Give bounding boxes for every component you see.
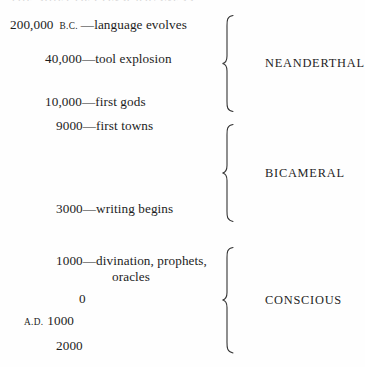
entry-era: B.C. — [60, 21, 78, 31]
entry-number: 3000 — [56, 201, 83, 216]
era-group-label: CONSCIOUS — [265, 293, 342, 308]
entry-event: first towns — [96, 118, 153, 133]
curly-brace-icon — [221, 14, 243, 113]
entry-number: 40,000 — [45, 51, 82, 66]
entry-number: 0 — [79, 291, 86, 306]
entry-number: 1000 — [47, 313, 74, 328]
entry-dash: — — [81, 17, 94, 32]
entry-event: divination, prophets, — [96, 253, 207, 268]
cropped-caption-remnant: THE SHIFT OF CONSCIOUSNESS — [10, 0, 194, 1]
entry-event: first gods — [95, 94, 145, 109]
curly-brace-icon — [221, 246, 243, 355]
entry-dash: — — [82, 51, 95, 66]
entry-event: writing begins — [96, 201, 173, 216]
entry-dash: — — [83, 253, 96, 268]
entry-number: 9000 — [56, 118, 83, 133]
era-group-conscious: CONSCIOUS — [221, 246, 363, 355]
entry-number: 1000 — [56, 253, 83, 268]
era-group-label: BICAMERAL — [265, 166, 345, 181]
entry-event: tool explosion — [95, 51, 172, 66]
curly-brace-icon — [221, 123, 243, 223]
era-group-label: NEANDERTHAL — [265, 56, 365, 71]
era-group-bicameral: BICAMERAL — [221, 123, 363, 223]
entry-number: 10,000 — [45, 94, 82, 109]
entry-era: A.D. — [24, 317, 43, 327]
entry-dash: — — [83, 201, 96, 216]
era-group-neanderthal: NEANDERTHAL — [221, 14, 363, 113]
entry-number: 2000 — [56, 338, 83, 353]
entry-event-line2: oracles — [112, 269, 207, 284]
entry-event: language evolves — [94, 17, 187, 32]
entry-number: 200,000 — [10, 17, 54, 32]
entry-dash: — — [82, 94, 95, 109]
entry-dash: — — [83, 118, 96, 133]
